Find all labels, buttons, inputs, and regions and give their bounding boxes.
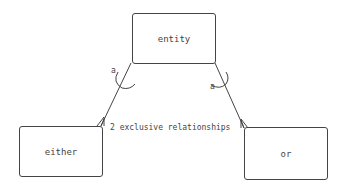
diagram-canvas: entity either or a a 2 exclusive relatio… (0, 0, 346, 186)
or-box[interactable]: or (244, 127, 328, 180)
or-label: or (281, 149, 292, 159)
relationship-line-either (101, 63, 131, 126)
either-label: either (45, 147, 78, 157)
relationship-label-right: a (210, 82, 215, 91)
entity-label: entity (158, 34, 191, 44)
exclusive-annotation: 2 exclusive relationships (110, 123, 230, 132)
relationship-label-left: a (111, 66, 116, 75)
either-box[interactable]: either (19, 126, 103, 177)
relationship-line-or (215, 63, 244, 128)
entity-box[interactable]: entity (132, 13, 216, 64)
